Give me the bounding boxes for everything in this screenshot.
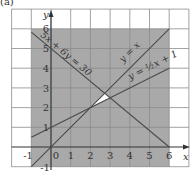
svg-text:5: 5 [146,150,152,161]
svg-text:3: 3 [43,83,49,94]
inequality-graph: -1 0 1 2 3 4 5 6 -1 1 2 3 4 5 6 x y 5x +… [0,0,191,174]
y-axis-label: y [42,9,49,20]
svg-text:1: 1 [43,122,49,133]
svg-text:1: 1 [68,150,74,161]
svg-text:3: 3 [107,150,113,161]
svg-text:6: 6 [166,150,172,161]
svg-text:0: 0 [53,150,59,161]
svg-text:2: 2 [43,102,49,113]
x-axis-label: x [183,151,189,162]
svg-text:4: 4 [127,150,133,161]
svg-text:-1: -1 [23,150,33,161]
svg-text:-1: -1 [40,162,50,173]
y-axis-arrow-icon [49,10,54,17]
svg-text:4: 4 [43,63,49,74]
svg-text:2: 2 [87,150,93,161]
